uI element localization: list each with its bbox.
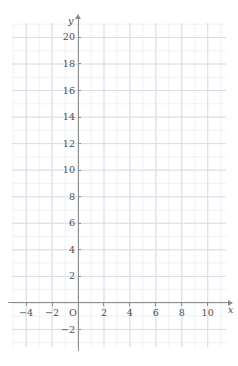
y-axis-line [78,19,79,351]
x-tick-label: −4 [19,308,33,318]
origin-label: O [69,308,77,318]
y-tick-label: 14 [63,112,75,122]
y-tick-label: 2 [69,272,75,282]
x-tick-mark [155,303,156,306]
y-tick-label: 12 [63,139,75,149]
y-tick-label: 18 [63,59,75,69]
x-tick-label: −2 [45,308,59,318]
y-tick-mark [78,90,81,91]
y-tick-label: −2 [61,325,75,335]
coordinate-grid-figure: −4−2246810 −22468101214161820 O x y [0,0,238,366]
x-tick-label: 4 [127,308,133,318]
y-tick-mark [78,63,81,64]
y-tick-mark [78,170,81,171]
y-tick-mark [78,196,81,197]
y-tick-label: 16 [63,86,75,96]
x-tick-mark [181,303,182,306]
y-tick-label: 20 [63,33,75,43]
x-tick-label: 6 [153,308,159,318]
y-tick-mark [78,117,81,118]
x-tick-label: 10 [202,308,214,318]
x-axis-label: x [228,305,233,315]
y-tick-label: 8 [69,192,75,202]
y-tick-label: 6 [69,219,75,229]
x-tick-mark [52,303,53,306]
x-tick-mark [129,303,130,306]
y-tick-mark [78,249,81,250]
y-tick-label: 4 [69,245,75,255]
y-tick-mark [78,276,81,277]
grid-background [12,23,226,347]
x-tick-label: 2 [101,308,107,318]
y-tick-mark [78,37,81,38]
y-tick-mark [78,223,81,224]
y-axis-arrowhead-icon [75,14,81,19]
y-tick-mark [78,143,81,144]
y-axis-label: y [68,16,73,26]
x-axis-line [8,302,230,303]
x-tick-mark [207,303,208,306]
x-tick-label: 8 [179,308,185,318]
x-tick-mark [103,303,104,306]
x-tick-mark [26,303,27,306]
y-tick-mark [78,329,81,330]
y-tick-label: 10 [63,165,75,175]
